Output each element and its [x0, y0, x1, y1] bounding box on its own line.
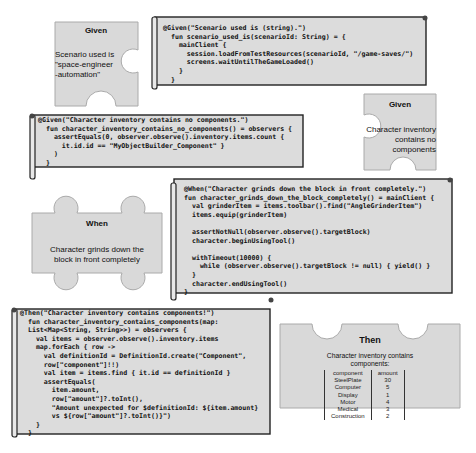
given-inventory-text: Character inventory contains no componen… — [352, 125, 436, 155]
then-title: Then — [278, 335, 462, 345]
given-inventory-code-scroll: @Given("Character inventory contains no … — [29, 113, 304, 181]
given-inventory-title: Given — [364, 100, 436, 109]
then-piece: Then Character inventory contains compon… — [278, 322, 463, 412]
then-code: @Then("Character inventory contains comp… — [20, 309, 258, 438]
when-code-scroll: @When("Character grinds down the block i… — [170, 177, 455, 302]
table-header-component: component — [325, 370, 372, 377]
given-inventory-code: @Given("Character inventory contains no … — [38, 116, 292, 168]
given-scenario-text: Scenario used is "space-engineer -automa… — [55, 50, 135, 80]
table-row: Computer 5 — [325, 384, 405, 391]
when-piece: When Character grinds down the block in … — [30, 195, 166, 295]
when-text: Character grinds down the block in front… — [30, 245, 164, 265]
given-scenario-piece: Given Scenario used is "space-engineer -… — [53, 20, 163, 108]
given-inventory-piece: Given Character inventory contains no co… — [340, 92, 440, 172]
table-row: Motor 4 — [325, 399, 405, 406]
when-title: When — [30, 219, 164, 228]
when-code: @When("Character grinds down the block i… — [184, 185, 434, 297]
components-table: component amount SteelPlate 30 Computer … — [324, 370, 405, 420]
table-row: Display 1 — [325, 392, 405, 399]
then-code-scroll: @Then("Character inventory contains comp… — [11, 307, 271, 439]
table-header-amount: amount — [371, 370, 404, 377]
then-text: Character inventory contains components: — [278, 352, 462, 368]
table-row: SteelPlate 30 — [325, 377, 405, 384]
table-row: Medical 3 — [325, 406, 405, 413]
given-scenario-code-scroll: @Given("Scenario used is (string).") fun… — [151, 15, 428, 90]
table-row: Construction 2 — [325, 413, 405, 420]
given-scenario-code: @Given("Scenario used is (string).") fun… — [163, 24, 413, 84]
table-header-row: component amount — [325, 370, 405, 377]
given-scenario-title: Given — [53, 26, 139, 35]
